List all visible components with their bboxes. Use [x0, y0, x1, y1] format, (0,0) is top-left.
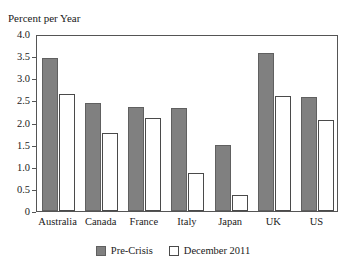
chart-legend: Pre-CrisisDecember 2011 [0, 245, 346, 256]
bar-group [210, 36, 253, 211]
x-axis-tick-label: Canada [79, 216, 122, 227]
bar-pre-crisis [171, 108, 187, 211]
bar-december-2011 [188, 173, 204, 211]
y-axis-tick-label: 4.0 [0, 30, 30, 40]
plot-area [36, 35, 338, 212]
bar-pre-crisis [42, 58, 58, 211]
x-axis-tick-label: Japan [209, 216, 252, 227]
bar-chart-figure: Percent per Year 4.03.53.02.52.01.51.00.… [0, 0, 346, 268]
y-axis-tick-label: 1.0 [0, 163, 30, 173]
bar-pre-crisis [301, 97, 317, 211]
y-axis-title: Percent per Year [8, 12, 80, 24]
bar-pre-crisis [85, 103, 101, 211]
x-axis-tick-label: US [295, 216, 338, 227]
legend-item: Pre-Crisis [96, 245, 153, 256]
bar-december-2011 [102, 133, 118, 211]
x-axis-tick-label: Italy [165, 216, 208, 227]
legend-label: Pre-Crisis [111, 245, 153, 256]
bar-december-2011 [318, 120, 334, 211]
bar-pre-crisis [128, 107, 144, 211]
bar-pre-crisis [215, 145, 231, 211]
bar-group [123, 36, 166, 211]
y-axis-tick-label: 3.5 [0, 52, 30, 62]
bar-group [253, 36, 296, 211]
y-axis-tick-label: 2.5 [0, 96, 30, 106]
bar-december-2011 [145, 118, 161, 211]
y-axis-tick-label: 0 [0, 207, 30, 217]
y-axis-tick-label: 2.0 [0, 119, 30, 129]
bar-group [296, 36, 339, 211]
legend-swatch-icon [169, 246, 179, 256]
x-axis-tick-label: UK [252, 216, 295, 227]
bar-group [166, 36, 209, 211]
bar-december-2011 [275, 96, 291, 211]
bar-group [80, 36, 123, 211]
y-axis-tick-label: 3.0 [0, 74, 30, 84]
y-axis-tick-label: 1.5 [0, 141, 30, 151]
bar-december-2011 [232, 195, 248, 211]
legend-item: December 2011 [169, 245, 250, 256]
legend-label: December 2011 [184, 245, 250, 256]
x-axis-tick-label: Australia [36, 216, 79, 227]
y-axis-tick-mark [32, 212, 36, 213]
y-axis-tick-label: 0.5 [0, 185, 30, 195]
bar-december-2011 [59, 94, 75, 211]
bar-group [37, 36, 80, 211]
x-axis-tick-label: France [122, 216, 165, 227]
legend-swatch-icon [96, 246, 106, 256]
bar-pre-crisis [258, 53, 274, 211]
